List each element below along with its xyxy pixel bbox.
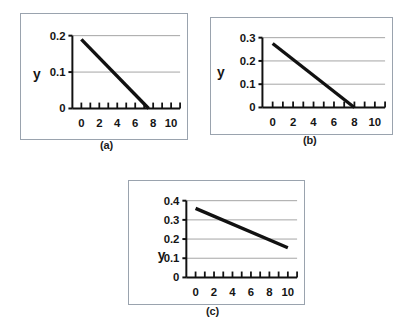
svg-text:y: y (217, 65, 225, 80)
svg-text:10: 10 (369, 116, 382, 128)
svg-text:0: 0 (192, 286, 198, 298)
plot-a: 00.10.20246810y (21, 14, 187, 139)
caption-a: (a) (100, 139, 113, 151)
svg-text:0.1: 0.1 (164, 252, 180, 264)
svg-text:2: 2 (96, 117, 102, 129)
svg-text:0.1: 0.1 (240, 78, 256, 90)
svg-text:y: y (158, 248, 166, 263)
plot-c: 00.10.20.30.40246810y (129, 181, 304, 304)
svg-text:0.4: 0.4 (164, 195, 180, 207)
chart-panel-b: 00.10.20.30246810y (210, 17, 393, 135)
svg-text:2: 2 (290, 116, 296, 128)
plot-b: 00.10.20.30246810y (211, 18, 392, 134)
svg-text:0: 0 (173, 271, 179, 283)
svg-text:0: 0 (78, 117, 84, 129)
svg-text:2: 2 (211, 286, 217, 298)
chart-panel-c: 00.10.20.30.40246810y (128, 180, 305, 305)
svg-text:0.3: 0.3 (240, 32, 256, 44)
caption-b: (b) (303, 134, 316, 146)
svg-text:0: 0 (249, 101, 255, 113)
svg-text:10: 10 (165, 117, 178, 129)
svg-text:0.3: 0.3 (164, 214, 180, 226)
chart-panel-a: 00.10.20246810y (20, 13, 188, 140)
svg-text:6: 6 (132, 117, 138, 129)
svg-text:6: 6 (248, 286, 254, 298)
svg-text:6: 6 (331, 116, 337, 128)
svg-text:0.2: 0.2 (164, 233, 180, 245)
svg-text:8: 8 (351, 116, 357, 128)
caption-c: (c) (206, 305, 219, 317)
svg-text:y: y (33, 67, 41, 82)
svg-text:4: 4 (229, 286, 236, 298)
svg-text:0: 0 (59, 102, 65, 114)
svg-text:0.2: 0.2 (240, 55, 256, 67)
svg-text:0.1: 0.1 (50, 66, 66, 78)
svg-text:10: 10 (282, 286, 295, 298)
svg-text:8: 8 (150, 117, 156, 129)
svg-text:0.2: 0.2 (50, 30, 66, 42)
svg-text:4: 4 (114, 117, 121, 129)
svg-text:8: 8 (266, 286, 272, 298)
svg-text:0: 0 (269, 116, 275, 128)
svg-text:4: 4 (310, 116, 317, 128)
